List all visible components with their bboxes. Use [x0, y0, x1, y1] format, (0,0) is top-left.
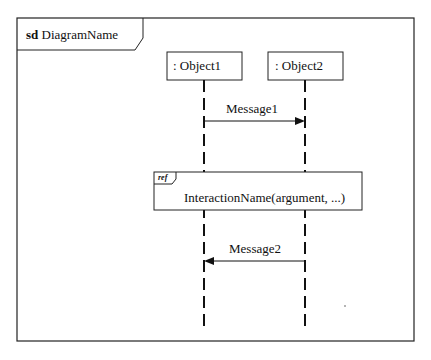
arrowhead-left-icon — [204, 257, 214, 265]
frame-title: sd DiagramName — [26, 27, 118, 43]
object1-label: : Object1 — [173, 58, 221, 74]
message2-label: Message2 — [229, 241, 281, 257]
frame-keyword: sd — [26, 27, 38, 42]
diagram-canvas — [0, 0, 431, 360]
frame-name: DiagramName — [42, 27, 119, 42]
object2-label: : Object2 — [275, 58, 323, 74]
ref-text: InteractionName(argument, ...) — [184, 190, 345, 206]
message1-label: Message1 — [226, 101, 278, 117]
ref-keyword: ref — [158, 173, 167, 182]
arrowhead-right-icon — [295, 117, 305, 125]
